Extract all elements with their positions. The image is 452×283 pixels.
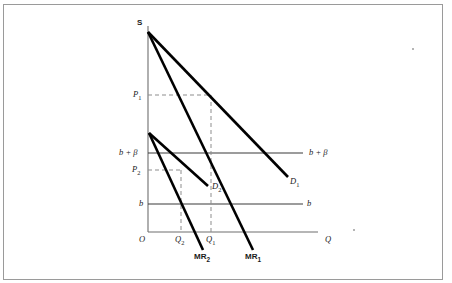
label-quantity-2-sub: 2 bbox=[181, 239, 184, 246]
label-quantity-2: Q2 bbox=[175, 235, 184, 246]
label-cost-b-beta-right: b + β bbox=[309, 148, 327, 157]
figure-root: S P1 P2 b + β b + β b b O Q2 Q1 Q D2 D1 … bbox=[0, 0, 452, 283]
label-cost-b-right: b bbox=[307, 199, 311, 208]
label-marginal-revenue-1: MR1 bbox=[245, 253, 261, 263]
marginal-revenue-curve-mr1 bbox=[148, 32, 253, 250]
label-origin: O bbox=[139, 235, 145, 244]
label-x-axis: Q bbox=[325, 235, 331, 244]
label-mr2-text: MR bbox=[194, 252, 206, 261]
label-mr2-sub: 2 bbox=[206, 256, 210, 263]
label-price-2: P2 bbox=[132, 165, 140, 176]
label-cost-b-left: b bbox=[139, 199, 143, 208]
scan-speck-top-right bbox=[412, 48, 414, 50]
label-mr1-text: MR bbox=[245, 252, 257, 261]
label-demand-2: D2 bbox=[212, 182, 221, 193]
label-cost-b-beta-left: b + β bbox=[119, 148, 137, 157]
scan-speck-bottom-right bbox=[353, 229, 355, 231]
demand-curve-d1 bbox=[148, 32, 288, 177]
label-price-1-sub: 1 bbox=[138, 94, 141, 101]
label-demand-1-sub: 1 bbox=[296, 181, 299, 188]
label-quantity-1-sub: 1 bbox=[212, 239, 215, 246]
label-price-1: P1 bbox=[133, 90, 141, 101]
label-quantity-1: Q1 bbox=[206, 235, 215, 246]
label-marginal-revenue-2: MR2 bbox=[194, 253, 210, 263]
label-demand-1: D1 bbox=[290, 177, 299, 188]
label-demand-2-sub: 2 bbox=[218, 186, 221, 193]
label-supply-point: S bbox=[137, 19, 142, 27]
plot-canvas bbox=[0, 0, 452, 283]
label-price-2-sub: 2 bbox=[137, 169, 140, 176]
label-mr1-sub: 1 bbox=[257, 256, 261, 263]
